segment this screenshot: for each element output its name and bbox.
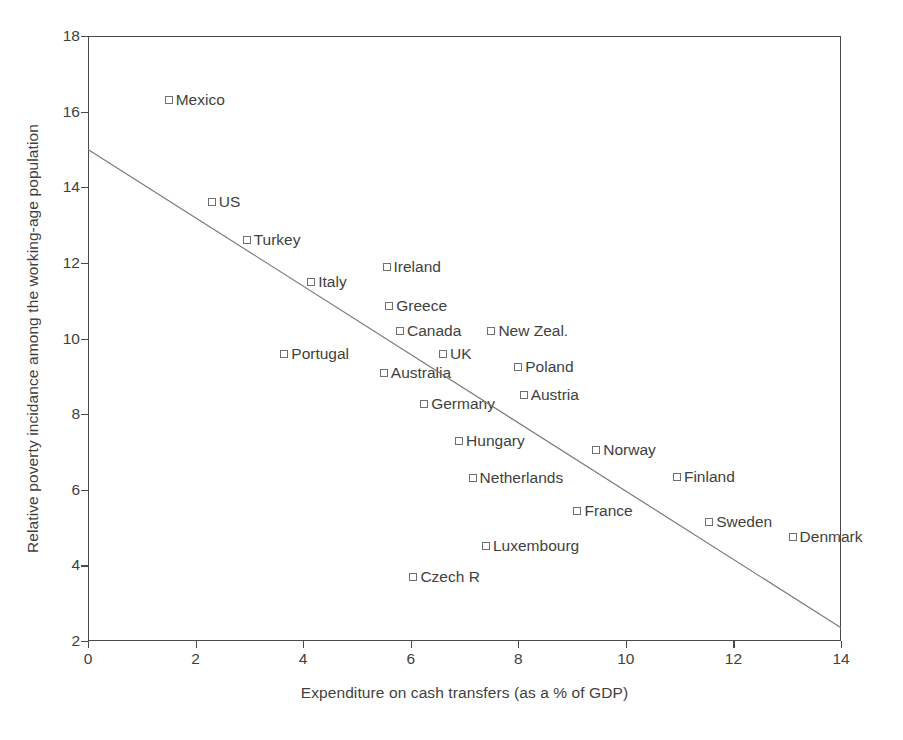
data-point-label: Netherlands — [480, 471, 564, 487]
y-tick-mark — [81, 112, 88, 113]
data-point-marker — [409, 573, 417, 581]
data-point-marker — [705, 518, 713, 526]
data-point-marker — [673, 473, 681, 481]
x-tick-mark — [303, 641, 304, 648]
x-tick-label: 12 — [713, 651, 753, 667]
data-point-marker — [243, 236, 251, 244]
y-tick-mark — [81, 641, 88, 642]
data-point-marker — [439, 350, 447, 358]
data-point-marker — [385, 302, 393, 310]
y-tick-mark — [81, 565, 88, 566]
y-tick-label: 12 — [40, 255, 80, 271]
data-point-marker — [396, 327, 404, 335]
x-tick-mark — [88, 641, 89, 648]
data-point-label: Mexico — [176, 93, 225, 109]
data-point-label: New Zeal. — [498, 323, 568, 339]
x-tick-mark — [733, 641, 734, 648]
plot-area — [88, 36, 841, 641]
data-point-marker — [789, 533, 797, 541]
data-point-marker — [208, 198, 216, 206]
y-tick-mark — [81, 339, 88, 340]
y-tick-label: 6 — [40, 482, 80, 498]
data-point-label: Austria — [531, 387, 579, 403]
data-point-marker — [482, 542, 490, 550]
y-tick-mark — [81, 263, 88, 264]
data-point-label: Portugal — [291, 346, 349, 362]
x-tick-label: 8 — [498, 651, 538, 667]
y-tick-mark — [81, 36, 88, 37]
data-point-marker — [455, 437, 463, 445]
x-tick-mark — [518, 641, 519, 648]
x-tick-mark — [411, 641, 412, 648]
data-point-label: Australia — [391, 365, 451, 381]
data-point-label: Poland — [525, 359, 573, 375]
x-tick-label: 2 — [176, 651, 216, 667]
data-point-label: Denmark — [800, 529, 863, 545]
data-point-label: France — [584, 503, 632, 519]
x-tick-mark — [196, 641, 197, 648]
data-point-marker — [592, 446, 600, 454]
data-point-marker — [514, 363, 522, 371]
data-point-label: US — [219, 195, 241, 211]
y-tick-label: 16 — [40, 104, 80, 120]
data-point-label: Canada — [407, 323, 461, 339]
data-point-label: Luxembourg — [493, 539, 579, 555]
x-tick-label: 6 — [391, 651, 431, 667]
data-point-marker — [307, 278, 315, 286]
data-point-label: UK — [450, 346, 472, 362]
y-tick-mark — [81, 187, 88, 188]
y-tick-label: 18 — [40, 28, 80, 44]
data-point-marker — [280, 350, 288, 358]
x-axis-title: Expenditure on cash transfers (as a % of… — [88, 684, 841, 702]
x-tick-label: 14 — [821, 651, 861, 667]
x-tick-label: 10 — [606, 651, 646, 667]
data-point-label: Ireland — [394, 259, 441, 275]
data-point-marker — [420, 400, 428, 408]
data-point-marker — [383, 263, 391, 271]
x-tick-mark — [626, 641, 627, 648]
data-point-marker — [573, 507, 581, 515]
y-tick-label: 8 — [40, 406, 80, 422]
data-point-label: Finland — [684, 469, 735, 485]
data-point-marker — [380, 369, 388, 377]
data-point-label: Sweden — [716, 514, 772, 530]
scatter-chart-figure: Relative poverty incidance among the wor… — [0, 0, 903, 740]
y-tick-label: 14 — [40, 179, 80, 195]
y-tick-mark — [81, 490, 88, 491]
x-tick-mark — [841, 641, 842, 648]
data-point-marker — [469, 474, 477, 482]
data-point-label: Italy — [318, 274, 346, 290]
data-point-label: Hungary — [466, 433, 525, 449]
x-tick-label: 4 — [283, 651, 323, 667]
y-tick-label: 10 — [40, 331, 80, 347]
y-tick-label: 2 — [40, 633, 80, 649]
data-point-label: Czech R — [420, 569, 479, 585]
y-tick-label: 4 — [40, 557, 80, 573]
x-tick-label: 0 — [68, 651, 108, 667]
data-point-marker — [520, 391, 528, 399]
data-point-marker — [487, 327, 495, 335]
data-point-label: Germany — [431, 396, 495, 412]
data-point-marker — [165, 96, 173, 104]
data-point-label: Turkey — [254, 232, 301, 248]
y-tick-mark — [81, 414, 88, 415]
data-point-label: Greece — [396, 299, 447, 315]
data-point-label: Norway — [603, 442, 656, 458]
